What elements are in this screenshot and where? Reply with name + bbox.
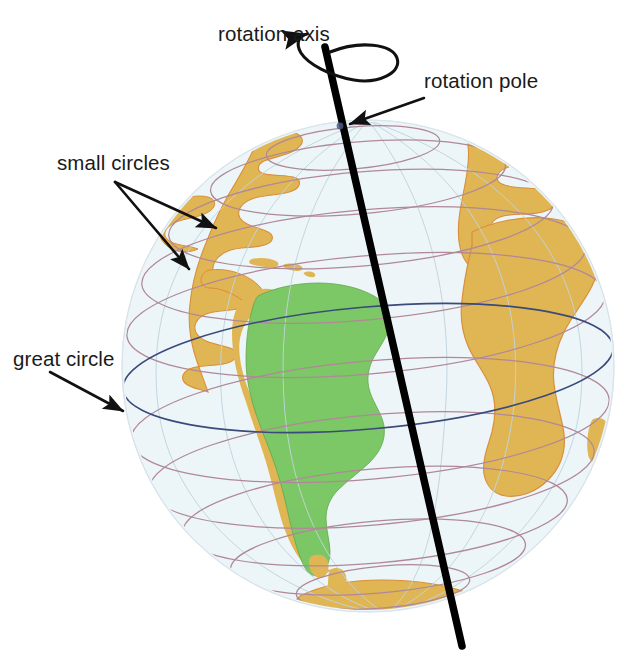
globe [118, 119, 619, 638]
label-rotation-axis: rotation axis [218, 22, 330, 45]
label-great-circle: great circle [13, 347, 114, 370]
globe-diagram-figure: rotation axis rotation pole small circle… [0, 0, 636, 663]
globe-diagram-svg: rotation axis rotation pole small circle… [0, 0, 636, 663]
leader-rotation-pole [350, 98, 424, 124]
label-rotation-pole: rotation pole [424, 69, 538, 92]
north-pole-marker [337, 123, 344, 130]
leader-great-circle [50, 372, 123, 411]
label-small-circles: small circles [57, 151, 170, 174]
